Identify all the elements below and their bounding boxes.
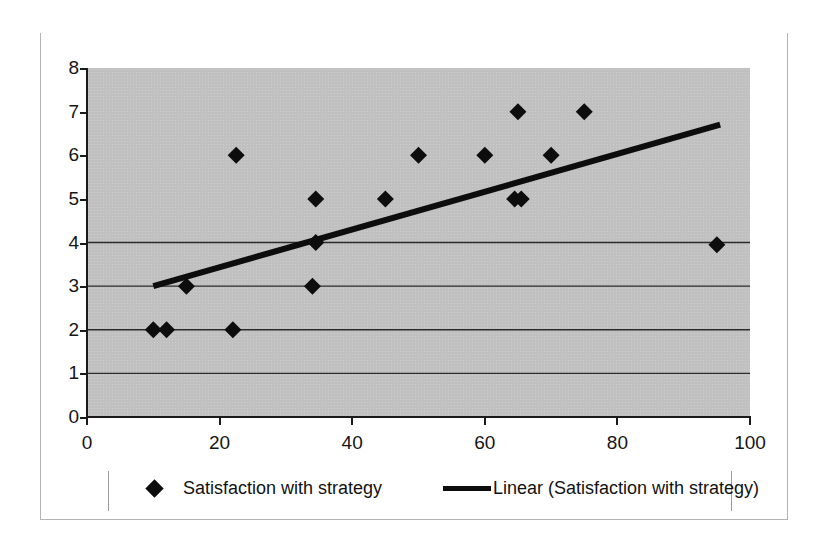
y-axis-tick-mark (80, 286, 87, 288)
legend-item-trendline-label: Linear (Satisfaction with strategy) (493, 479, 759, 497)
y-axis-tick-mark (80, 330, 87, 332)
x-axis-tick-label: 80 (607, 433, 628, 452)
line-marker-icon (443, 486, 491, 491)
y-axis-tick-mark (80, 155, 87, 157)
x-axis-tick-label: 60 (474, 433, 495, 452)
x-axis-tick-mark (351, 418, 353, 425)
x-axis-tick-mark (86, 418, 88, 425)
y-axis-tick-mark (80, 243, 87, 245)
x-axis-tick-label: 20 (209, 433, 230, 452)
x-axis-tick-mark (749, 418, 751, 425)
scatter-chart: 012345678 020406080100 Satisfaction with… (0, 0, 822, 553)
chart-legend: Satisfaction with strategy Linear (Satis… (108, 469, 732, 513)
x-axis-tick-mark (484, 418, 486, 425)
legend-left-divider (108, 471, 109, 511)
legend-item-satisfaction-label: Satisfaction with strategy (183, 479, 382, 497)
diamond-marker-icon (145, 479, 163, 497)
x-axis-tick-label: 40 (342, 433, 363, 452)
x-axis-tick-label: 100 (734, 433, 766, 452)
y-axis-tick-mark (80, 112, 87, 114)
y-axis-tick-mark (80, 199, 87, 201)
x-axis-tick-mark (219, 418, 221, 425)
legend-item-satisfaction[interactable]: Satisfaction with strategy (148, 479, 382, 497)
x-axis-tick-label: 0 (82, 433, 93, 452)
x-axis-tick-mark (616, 418, 618, 425)
y-axis-tick-mark (80, 373, 87, 375)
y-axis-tick-mark (80, 68, 87, 70)
legend-item-trendline[interactable]: Linear (Satisfaction with strategy) (443, 479, 759, 497)
